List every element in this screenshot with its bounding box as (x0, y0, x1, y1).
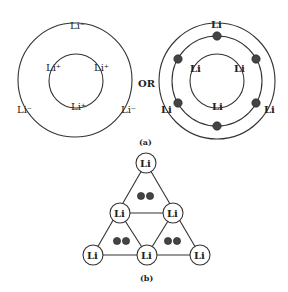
inner-atom-label-bottom: Li⁺ (71, 101, 86, 112)
svg-text:Li: Li (87, 250, 98, 261)
electron-dot (213, 122, 221, 130)
svg-text:Li: Li (194, 250, 205, 261)
outer-ring (18, 23, 132, 137)
inner-atom-label-left: Li⁺ (46, 62, 61, 73)
caption-b: (b) (140, 273, 153, 283)
electron-pair-left (113, 237, 129, 244)
atom-bottom-right: Li (190, 245, 210, 265)
svg-text:Li: Li (141, 250, 152, 261)
inner-atom-label-bottom: Li (212, 101, 223, 112)
outer-atom-label-left: Li (161, 104, 172, 115)
outer-atom-label-right: Li (264, 104, 275, 115)
svg-text:Li: Li (140, 158, 151, 169)
outer-atom-label-top: Li (211, 19, 222, 30)
outer-atom-label-left: Li⁻ (17, 104, 32, 115)
atom-top: Li (136, 153, 156, 173)
inner-atom-label-right: Li (234, 63, 245, 74)
atom-middle-left: Li (110, 203, 130, 223)
electron-dot (252, 99, 260, 107)
covalent-model: Li Li Li Li Li Li (159, 19, 275, 139)
or-separator: OR (138, 78, 156, 89)
atom-bottom-left: Li (83, 245, 103, 265)
diagram-canvas: Li⁻ Li⁻ Li⁻ Li⁺ Li⁺ Li⁺ OR Li Li Li Li L… (0, 0, 288, 292)
inner-atom-label-right: Li⁺ (94, 62, 109, 73)
caption-a: (a) (139, 137, 152, 147)
outer-atom-label-right: Li⁻ (121, 104, 136, 115)
middle-ring (172, 36, 262, 126)
electron-dot (174, 99, 182, 107)
inner-atom-label-left: Li (190, 63, 201, 74)
electron-pair-top (137, 192, 153, 199)
triangle-cluster: Li Li Li Li Li Li (83, 153, 210, 265)
ionic-model: Li⁻ Li⁻ Li⁻ Li⁺ Li⁺ Li⁺ (17, 20, 136, 137)
electron-pair-right (164, 237, 180, 244)
atom-middle-right: Li (163, 203, 183, 223)
electron-dot (213, 32, 221, 40)
electron-dot (174, 55, 182, 63)
svg-text:Li: Li (167, 208, 178, 219)
outer-atom-label-top: Li⁻ (70, 20, 85, 31)
svg-text:Li: Li (114, 208, 125, 219)
atom-bottom-center: Li (137, 245, 157, 265)
electron-dot (252, 55, 260, 63)
